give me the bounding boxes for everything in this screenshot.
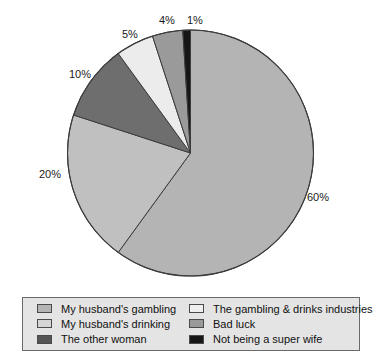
- slice-data-label-20: 20%: [39, 169, 61, 180]
- legend-swatch-icon: [37, 304, 52, 313]
- slice-data-label-60: 60%: [307, 192, 329, 203]
- legend-item: My husband's gambling: [23, 301, 175, 316]
- pie-slice-group: [67, 30, 313, 276]
- legend-item: My husband's drinking: [23, 316, 175, 331]
- pie-plot-area: 60% 20% 10% 5% 4% 1%: [0, 0, 385, 290]
- chart-legend: My husband's gamblingThe gambling & drin…: [22, 297, 360, 351]
- legend-item-label: My husband's gambling: [61, 303, 176, 315]
- slice-data-label-5: 5%: [122, 29, 138, 40]
- legend-grid: My husband's gamblingThe gambling & drin…: [23, 298, 359, 350]
- legend-swatch-icon: [189, 335, 204, 344]
- slice-data-label-10: 10%: [69, 69, 91, 80]
- legend-item-label: My husband's drinking: [61, 318, 170, 330]
- legend-item: Bad luck: [175, 316, 361, 331]
- legend-swatch-icon: [189, 319, 204, 328]
- pie-chart-figure: 60% 20% 10% 5% 4% 1% My husband's gambli…: [0, 0, 385, 364]
- legend-item-label: Not being a super wife: [213, 333, 322, 345]
- pie-svg: [0, 0, 385, 290]
- legend-item: Not being a super wife: [175, 332, 361, 347]
- slice-data-label-1: 1%: [187, 15, 203, 26]
- legend-swatch-icon: [189, 304, 204, 313]
- legend-item-label: The other woman: [61, 333, 147, 345]
- legend-item: The other woman: [23, 332, 175, 347]
- slice-data-label-4: 4%: [159, 15, 175, 26]
- legend-swatch-icon: [37, 335, 52, 344]
- legend-item: The gambling & drinks industries: [175, 301, 361, 316]
- legend-swatch-icon: [37, 319, 52, 328]
- legend-item-label: Bad luck: [213, 318, 255, 330]
- legend-item-label: The gambling & drinks industries: [213, 303, 373, 315]
